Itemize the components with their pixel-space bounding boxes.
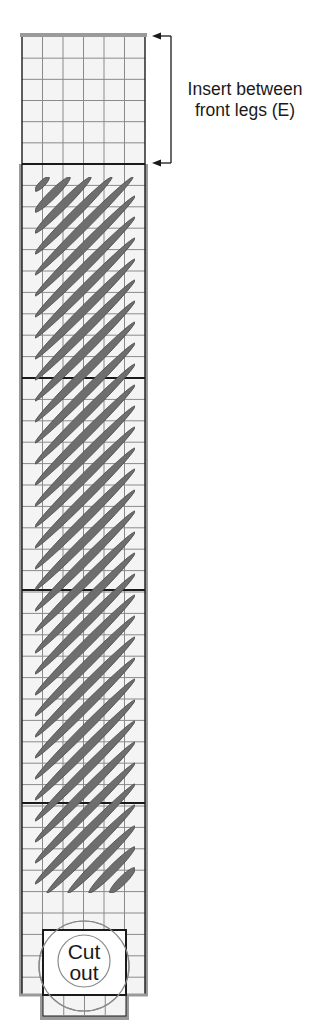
annotation-line1: Insert between [188,79,303,99]
cutout-label-line1: Cut [68,940,101,963]
cutout-label-line2: out [69,961,98,984]
top-border-band [20,33,147,37]
construction-diagram: Cut out Insert between front legs (E) [0,0,327,1027]
dimension-bracket [152,33,171,167]
arrow-left-icon [152,33,161,40]
annotation-line2: front legs (E) [195,100,295,120]
arrow-left-icon [152,160,161,167]
